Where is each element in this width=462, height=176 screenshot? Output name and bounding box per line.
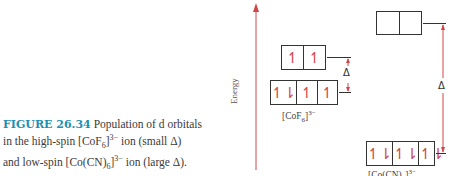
orbital: ↿ (297, 81, 317, 104)
cocn6-delta-label: Δ (438, 80, 445, 91)
caption-line2: in the high-spin [CoF (3, 135, 102, 147)
caption-line2-end: ion (small Δ) (118, 135, 181, 147)
caption-line1: Population of d orbitals (94, 118, 202, 130)
energy-axis-arrow (250, 0, 262, 176)
cof6-delta-label: Δ (343, 67, 350, 78)
charge: 3− (408, 168, 415, 176)
orbital: ↿ (318, 81, 337, 104)
energy-axis-label: Energy (229, 78, 239, 104)
charge: 3− (114, 154, 123, 163)
caption-line3: and low-spin [Co(CN) (3, 156, 107, 168)
formula-text: [CoF (282, 111, 302, 121)
orbital (377, 12, 400, 34)
orbital: ↿⇂ (367, 142, 393, 165)
orbital: ↿⇂ (271, 81, 297, 104)
figure-caption: FIGURE 26.34 Population of d orbitals in… (3, 118, 243, 173)
orbital (400, 12, 422, 34)
cof6-t2g-orbitals: ↿⇂ ↿ ↿ (270, 80, 338, 105)
cocn6-eg-orbitals (376, 11, 422, 35)
charge: 3− (110, 133, 119, 142)
orbital: ↿⇂ (393, 142, 419, 165)
figure-label: FIGURE 26.34 (3, 118, 91, 131)
cocn6-t2g-orbitals: ↿⇂ ↿⇂ ↿⇂ (366, 141, 435, 166)
orbital: ↿ (304, 46, 325, 69)
cof6-formula: [CoF6]3− (282, 109, 316, 124)
cocn6-formula: [Co(CN)6]3− (368, 168, 416, 176)
caption-line3-end: ion (large Δ). (123, 156, 187, 168)
charge: 3− (308, 109, 315, 117)
formula-text: [Co(CN) (368, 170, 402, 176)
orbital: ↿ (282, 46, 304, 69)
cof6-eg-orbitals: ↿ ↿ (281, 45, 326, 70)
